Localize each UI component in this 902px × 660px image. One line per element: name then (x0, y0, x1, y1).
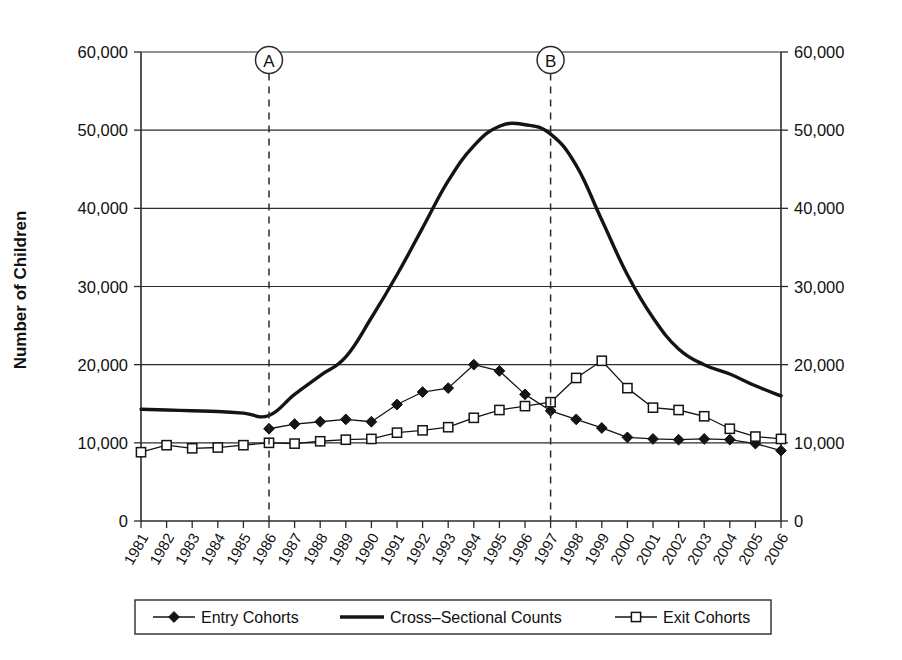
data-point-marker (751, 432, 760, 441)
y-tick-label-right: 40,000 (794, 199, 844, 217)
data-point-marker (444, 423, 453, 432)
legend-label: Cross–Sectional Counts (390, 609, 562, 626)
y-tick-label-right: 20,000 (794, 356, 844, 374)
annotation-label: B (545, 52, 556, 71)
y-tick-label-right: 10,000 (794, 434, 844, 452)
y-tick-label-left: 20,000 (78, 356, 128, 374)
data-point-marker (469, 413, 478, 422)
data-point-marker (418, 426, 427, 435)
data-point-marker (674, 405, 683, 414)
y-axis-title: Number of Children (11, 211, 30, 370)
data-point-marker (648, 403, 657, 412)
y-tick-label-right: 30,000 (794, 278, 844, 296)
y-tick-label-right: 0 (794, 512, 803, 530)
chart-legend: Entry CohortsCross–Sectional CountsExit … (135, 600, 771, 634)
annotation-label: A (263, 52, 275, 71)
data-point-marker (776, 434, 785, 443)
chart-figure: 010,00020,00030,00040,00050,00060,000 01… (0, 0, 902, 660)
data-point-marker (188, 444, 197, 453)
data-point-marker (341, 435, 350, 444)
data-point-marker (495, 405, 504, 414)
data-point-marker (572, 373, 581, 382)
legend-label: Exit Cohorts (663, 609, 750, 626)
data-point-marker (392, 428, 401, 437)
data-point-marker (725, 424, 734, 433)
data-point-marker (239, 441, 248, 450)
data-point-marker (213, 443, 222, 452)
data-point-marker (136, 448, 145, 457)
y-tick-label-left: 60,000 (78, 43, 128, 61)
data-point-marker (316, 437, 325, 446)
y-tick-label-left: 40,000 (78, 199, 128, 217)
y-tick-label-left: 30,000 (78, 278, 128, 296)
data-point-marker (367, 434, 376, 443)
data-point-marker (290, 439, 299, 448)
data-point-marker (520, 401, 529, 410)
number-of-children-line-chart: 010,00020,00030,00040,00050,00060,000 01… (0, 0, 902, 660)
data-point-marker (597, 356, 606, 365)
data-point-marker (700, 412, 709, 421)
data-point-marker (623, 384, 632, 393)
y-tick-label-right: 60,000 (794, 43, 844, 61)
legend-label: Entry Cohorts (201, 609, 299, 626)
legend-marker (631, 612, 640, 621)
y-tick-label-left: 10,000 (78, 434, 128, 452)
y-tick-label-left: 50,000 (78, 121, 128, 139)
y-tick-label-right: 50,000 (794, 121, 844, 139)
y-tick-label-left: 0 (119, 512, 128, 530)
data-point-marker (162, 441, 171, 450)
